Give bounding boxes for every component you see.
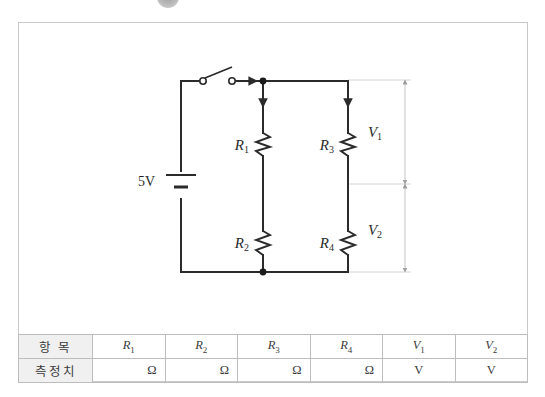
table-row-measurement: 측정치 Ω Ω Ω Ω V V [19,359,528,383]
measure-cell-r1[interactable]: Ω [93,359,166,383]
resistor-label-r1: R1 [234,137,249,155]
resistor-r2-zigzag [256,231,270,255]
switch-open[interactable] [200,67,235,84]
measurement-table: 항 목 R1 R2 R3 R4 V1 V2 측정치 Ω Ω Ω Ω V V [18,334,528,383]
figure-panel: 5V R1 R2 R3 R4 [18,22,528,382]
column-header-r1: R1 [93,335,166,359]
resistor-r4-zigzag [341,231,355,255]
row-header-measured: 측정치 [19,359,93,383]
battery-5v [166,175,196,187]
column-header-r4: R4 [310,335,383,359]
resistor-symbols [256,133,355,255]
column-header-v1: V1 [383,335,456,359]
battery-voltage-label: 5V [138,174,155,189]
table-row-header: 항 목 R1 R2 R3 R4 V1 V2 [19,335,528,359]
measure-cell-r4[interactable]: Ω [310,359,383,383]
resistor-label-r4: R4 [319,235,334,253]
dimension-layer [348,80,411,272]
resistor-label-r3: R3 [319,137,334,155]
measure-cell-r3[interactable]: Ω [238,359,311,383]
junction-node-top [260,78,267,85]
section-badge-icon [157,0,179,8]
junction-node-bottom [260,269,267,276]
row-header-item: 항 목 [19,335,93,359]
resistor-r3-zigzag [341,133,355,156]
measure-cell-v1[interactable]: V [383,359,456,383]
voltage-label-v1: V1 [368,124,382,142]
column-header-v2: V2 [455,335,528,359]
voltage-label-v2: V2 [368,222,382,240]
current-arrows [240,81,348,107]
column-header-r2: R2 [165,335,238,359]
circuit-diagram: 5V R1 R2 R3 R4 [19,23,529,323]
column-header-r3: R3 [238,335,311,359]
resistor-r1-zigzag [256,133,270,156]
measure-cell-v2[interactable]: V [455,359,528,383]
resistor-label-r2: R2 [234,235,249,253]
measure-cell-r2[interactable]: Ω [165,359,238,383]
screenshot-root: 5V R1 R2 R3 R4 [0,0,545,397]
